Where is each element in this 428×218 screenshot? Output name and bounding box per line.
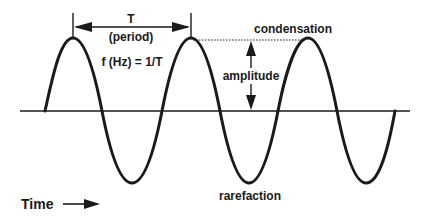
amplitude-label: amplitude	[223, 69, 280, 83]
period-text-label: (period)	[109, 30, 154, 44]
time-label: Time	[21, 196, 54, 212]
rarefaction-label: rarefaction	[219, 189, 281, 203]
frequency-label: f (Hz) = 1/T	[101, 55, 163, 69]
period-arrowhead-left-icon	[74, 22, 92, 32]
period-symbol-label: T	[127, 12, 135, 26]
period-arrowhead-right-icon	[172, 22, 190, 32]
wave-diagram: T (period) f (Hz) = 1/T amplitude conden…	[0, 0, 428, 218]
condensation-label: condensation	[254, 22, 332, 36]
right-arrow-icon	[63, 199, 100, 209]
amplitude-arrowhead-down-icon	[246, 95, 256, 110]
amplitude-arrowhead-up-icon	[246, 41, 256, 56]
